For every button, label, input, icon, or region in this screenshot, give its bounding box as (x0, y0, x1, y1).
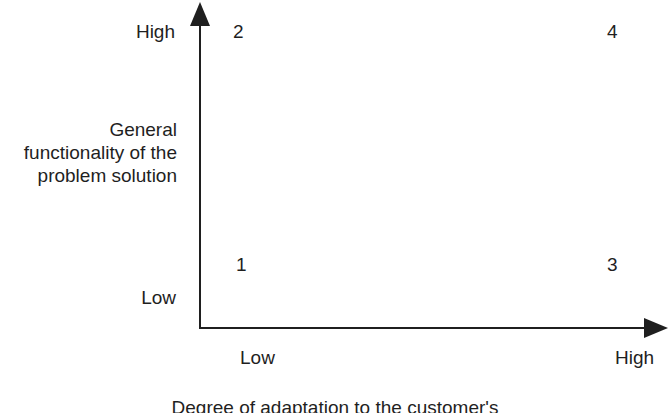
quadrant-label-3: 3 (607, 253, 618, 276)
x-axis-low-label: Low (240, 346, 275, 369)
x-axis-arrowhead (644, 318, 668, 338)
axes-graphic (0, 0, 670, 413)
quadrant-label-1: 1 (236, 253, 247, 276)
y-axis-arrowhead (190, 2, 210, 26)
y-axis-high-label: High (136, 20, 175, 43)
x-axis-title: Degree of adaptation to the customer's (0, 396, 670, 413)
y-axis-title: General functionality of the problem sol… (0, 118, 177, 187)
y-axis-title-line-3: problem solution (0, 164, 177, 187)
quadrant-label-2: 2 (233, 20, 244, 43)
quadrant-diagram: High Low General functionality of the pr… (0, 0, 670, 413)
x-axis-high-label: High (615, 346, 654, 369)
y-axis-title-line-2: functionality of the (0, 141, 177, 164)
quadrant-label-4: 4 (607, 20, 618, 43)
y-axis-title-line-1: General (0, 118, 177, 141)
y-axis-low-label: Low (141, 286, 176, 309)
